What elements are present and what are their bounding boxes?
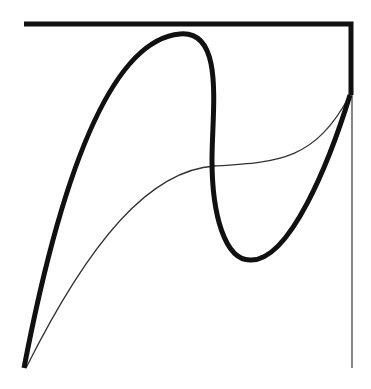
bezier-diagram (0, 0, 371, 389)
thick-curve (24, 34, 350, 368)
thin-curve (26, 95, 350, 368)
